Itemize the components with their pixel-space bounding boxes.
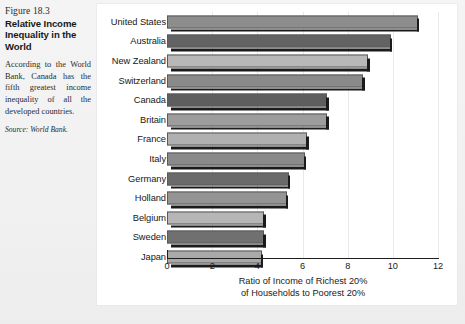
bar-row: Germany [97,169,457,189]
category-label: United States [111,17,166,27]
bar-switzerland[interactable] [167,74,363,87]
category-label: Belgium [133,213,166,223]
figure-number: Figure 18.3 [5,6,91,17]
bar-container [167,35,391,48]
bar-container [167,74,363,87]
category-label: Holland [135,193,166,203]
x-axis-title-line1: Ratio of Income of Richest 20% [167,276,439,288]
figure-description: According to the World Bank, Canada has … [5,59,91,117]
bar-container [167,211,264,224]
bar-row: Australia [97,32,457,52]
category-label: New Zealand [112,56,166,66]
bar-row: Switzerland [97,71,457,91]
category-label: Australia [130,36,166,46]
bar-italy[interactable] [167,152,305,165]
bar-belgium[interactable] [167,211,264,224]
bar-container [167,113,327,126]
x-tick-label-2: 2 [210,261,215,271]
bar-container [167,54,368,67]
x-tick-label-6: 6 [300,261,305,271]
bar-australia[interactable] [167,35,391,48]
bar-container [167,231,264,244]
bar-container [167,172,289,185]
x-axis-title: Ratio of Income of Richest 20% of Househ… [167,276,439,299]
category-label: Canada [134,95,166,105]
bar-container [167,94,327,107]
bar-row: Japan [97,247,457,267]
bar-row: Canada [97,90,457,110]
category-label: Japan [141,252,166,262]
bar-new-zealand[interactable] [167,54,368,67]
bar-britain[interactable] [167,113,327,126]
figure-page: Figure 18.3 Relative Income Inequality i… [0,0,465,324]
bar-container [167,152,305,165]
bar-row: Sweden [97,228,457,248]
bar-row: United States [97,12,457,32]
category-label: Britain [140,115,166,125]
category-label: Germany [128,174,166,184]
bar-row: France [97,130,457,150]
bar-germany[interactable] [167,172,289,185]
x-tick-label-10: 10 [388,261,398,271]
figure-caption-block: Figure 18.3 Relative Income Inequality i… [5,6,91,135]
figure-title: Relative Income Inequality in the World [5,18,91,52]
x-tick-label-8: 8 [345,261,350,271]
x-tick-label-4: 4 [255,261,260,271]
bar-row: Belgium [97,208,457,228]
x-axis-title-line2: of Households to Poorest 20% [167,288,439,300]
bar-row: Italy [97,149,457,169]
category-label: France [137,134,166,144]
bar-holland[interactable] [167,192,287,205]
bar-sweden[interactable] [167,231,264,244]
bar-container [167,133,307,146]
x-tick-label-0: 0 [164,261,169,271]
figure-source: Source: World Bank. [5,125,91,135]
bar-row: Holland [97,188,457,208]
bar-canada[interactable] [167,94,327,107]
category-label: Italy [149,154,166,164]
bar-chart-plot: United States Australia New Zealand Swit… [97,4,457,305]
chart-panel: United States Australia New Zealand Swit… [97,4,457,305]
bar-row: New Zealand [97,51,457,71]
bar-container [167,15,418,28]
bar-container [167,192,287,205]
category-label: Switzerland [118,76,166,86]
x-tick-label-12: 12 [433,261,443,271]
bar-france[interactable] [167,133,307,146]
bar-united-states[interactable] [167,15,418,28]
category-label: Sweden [133,232,166,242]
x-axis-line [167,258,439,259]
bar-row: Britain [97,110,457,130]
